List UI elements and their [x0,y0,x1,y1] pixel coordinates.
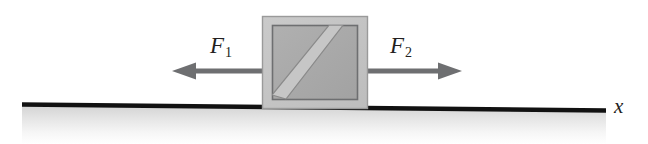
force-subscript-f2: 2 [404,45,412,60]
physics-figure: F1 F2 x [0,0,648,144]
force-symbol-f1: F [210,33,224,58]
axis-label-x: x [614,96,623,117]
force-arrow-left [172,63,262,80]
force-label-f1: F1 [210,34,232,60]
force-arrow-right [368,63,462,80]
diagram-canvas [0,0,648,144]
force-label-f2: F2 [390,34,412,60]
force-subscript-f1: 1 [224,45,232,60]
force-symbol-f2: F [390,33,404,58]
block [263,17,368,109]
